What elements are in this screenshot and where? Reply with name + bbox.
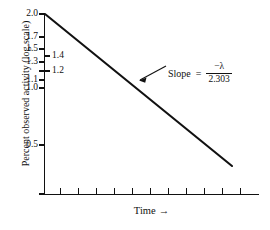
- x-tick-6: [168, 188, 169, 195]
- y-tick-8: [39, 193, 45, 194]
- y-tick-0: [39, 13, 45, 14]
- right-arrow-icon: →: [159, 205, 170, 216]
- x-axis-line: [44, 194, 259, 195]
- x-tick-9: [222, 188, 223, 195]
- y-tick-label-text: 1.3: [16, 57, 38, 67]
- y-tick-1: [39, 36, 45, 37]
- fraction-numerator: −λ: [212, 62, 226, 73]
- y-tick-label-text: 1.0: [16, 83, 38, 93]
- slope-annotation: Slope = −λ 2.303: [168, 62, 232, 84]
- y-tick-3: [39, 61, 45, 62]
- x-tick-5: [150, 188, 151, 195]
- x-tick-1: [78, 188, 79, 195]
- equals-sign: =: [196, 68, 202, 79]
- slope-fraction: −λ 2.303: [206, 62, 231, 84]
- x-tick-8: [204, 188, 205, 195]
- decay-line: [45, 14, 232, 166]
- x-axis-title: Time→: [44, 205, 259, 216]
- y-tick-6: [39, 87, 45, 88]
- y-secondary-label-1: 1.2: [52, 66, 64, 76]
- y-tick-label-text: 1.5: [16, 44, 38, 54]
- x-tick-3: [114, 188, 115, 195]
- y-tick-5: [39, 79, 45, 80]
- y-tick-label-text: 0.5: [16, 140, 38, 150]
- y-secondary-label-0: 1.4: [52, 51, 64, 61]
- y-tick-secondary-1: [45, 70, 50, 71]
- y-tick-label-text: 2.0: [16, 9, 38, 19]
- fraction-denominator: 2.303: [206, 74, 231, 85]
- chart-figure: Percent observed activity (log scale) 2.…: [0, 0, 270, 230]
- y-tick-secondary-0: [45, 55, 50, 56]
- x-tick-0: [60, 188, 61, 195]
- slope-arrow-icon: [139, 66, 166, 83]
- x-tick-10: [240, 188, 241, 195]
- y-tick-2: [39, 48, 45, 49]
- x-tick-2: [96, 188, 97, 195]
- x-tick-7: [186, 188, 187, 195]
- slope-label: Slope: [168, 68, 191, 79]
- plot-overlay: [0, 0, 270, 230]
- y-axis-line: [44, 13, 45, 195]
- y-tick-7: [39, 144, 45, 145]
- y-tick-label-text: 1.7: [16, 32, 38, 42]
- x-axis-title-text: Time: [134, 205, 156, 216]
- x-tick-4: [132, 188, 133, 195]
